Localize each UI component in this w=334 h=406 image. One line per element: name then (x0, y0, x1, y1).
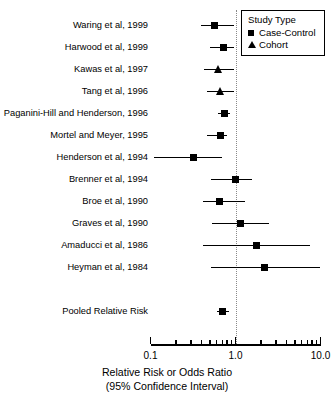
point-estimate-square-marker (219, 308, 226, 315)
study-label: Amaducci et al, 1986 (61, 234, 148, 256)
major-tick (235, 337, 237, 344)
point-estimate-square-marker (190, 154, 197, 161)
study-label: Mortel and Meyer, 1995 (50, 124, 148, 146)
study-row: Amaducci et al, 1986 (0, 234, 334, 256)
tick-label: 1.0 (229, 350, 243, 361)
study-label: Paganini-Hill and Henderson, 1996 (4, 102, 148, 124)
x-axis-title: Relative Risk or Odds Ratio (0, 366, 334, 378)
tick-label: 10.0 (311, 350, 330, 361)
study-label: Broe et al, 1990 (82, 190, 148, 212)
study-label: Graves et al, 1990 (72, 212, 148, 234)
study-row: Kawas et al, 1997 (0, 58, 334, 80)
minor-tick (275, 340, 277, 345)
point-estimate-square-marker (253, 242, 260, 249)
study-label: Kawas et al, 1997 (74, 58, 148, 80)
point-estimate-triangle-marker (216, 87, 224, 95)
point-estimate-triangle-marker (214, 65, 222, 73)
point-estimate-square-marker (220, 44, 227, 51)
forest-plot: Waring et al, 1999Harwood et al, 1999Kaw… (0, 0, 334, 406)
pooled-label: Pooled Relative Risk (62, 300, 148, 322)
triangle-marker-icon (248, 39, 259, 50)
minor-tick (231, 340, 233, 345)
confidence-interval-line (154, 157, 222, 158)
study-row: Broe et al, 1990 (0, 190, 334, 212)
study-label: Tang et al, 1996 (82, 80, 148, 102)
minor-tick (307, 340, 309, 345)
minor-tick (311, 340, 313, 345)
point-estimate-square-marker (211, 22, 218, 29)
study-label: Heyman et al, 1984 (67, 256, 148, 278)
minor-tick (301, 340, 303, 345)
confidence-interval-line (203, 201, 244, 202)
minor-tick (226, 340, 228, 345)
major-tick (150, 337, 152, 344)
x-axis-subtitle: (95% Confidence Interval) (0, 380, 334, 392)
study-label: Harwood et al, 1999 (65, 36, 148, 58)
minor-tick (316, 340, 318, 345)
study-row: Paganini-Hill and Henderson, 1996 (0, 102, 334, 124)
minor-tick (216, 340, 218, 345)
study-row: Tang et al, 1996 (0, 80, 334, 102)
minor-tick (294, 340, 296, 345)
pooled-row: Pooled Relative Risk (0, 300, 334, 322)
minor-tick (190, 340, 192, 345)
major-tick (320, 337, 322, 344)
point-estimate-square-marker (221, 110, 228, 117)
study-label: Henderson et al, 1994 (57, 146, 149, 168)
minor-tick (209, 340, 211, 345)
point-estimate-square-marker (217, 132, 224, 139)
study-row: Heyman et al, 1984 (0, 256, 334, 278)
minor-tick (260, 340, 262, 345)
point-estimate-square-marker (232, 176, 239, 183)
square-marker-icon (248, 27, 259, 38)
study-row: Brenner et al, 1994 (0, 168, 334, 190)
study-label: Brenner et al, 1994 (69, 168, 148, 190)
minor-tick (222, 340, 224, 345)
study-row: Mortel and Meyer, 1995 (0, 124, 334, 146)
x-axis-line (151, 344, 321, 346)
minor-tick (201, 340, 203, 345)
legend-label-case-control: Case-Control (259, 27, 316, 38)
study-label: Waring et al, 1999 (73, 14, 148, 36)
study-row: Graves et al, 1990 (0, 212, 334, 234)
legend-label-cohort: Cohort (259, 39, 288, 50)
legend-title: Study Type (242, 14, 324, 27)
minor-tick (175, 340, 177, 345)
legend-entry-cohort: Cohort (242, 39, 324, 51)
minor-tick (286, 340, 288, 345)
tick-label: 0.1 (144, 350, 158, 361)
legend: Study Type Case-Control Cohort (241, 10, 325, 56)
point-estimate-square-marker (216, 198, 223, 205)
study-row: Henderson et al, 1994 (0, 146, 334, 168)
legend-entry-case-control: Case-Control (242, 27, 324, 39)
point-estimate-square-marker (261, 264, 268, 271)
point-estimate-square-marker (237, 220, 244, 227)
